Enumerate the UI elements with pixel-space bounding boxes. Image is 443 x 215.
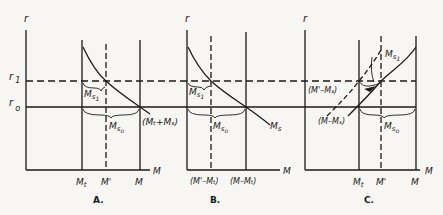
panel-b-ms0-brace — [188, 109, 245, 118]
r0-label: ro — [9, 97, 20, 113]
panel-c-tick-mprime: M' — [376, 177, 386, 187]
panel-a — [26, 30, 150, 170]
panel-b-r-label: r — [185, 13, 190, 24]
panel-a-ms0-brace — [83, 109, 139, 118]
panel-b-caption: B. — [210, 195, 220, 205]
panel-c-r-label: r — [303, 13, 308, 24]
panel-c-dashed-curve-label: (M'–Mₛ) — [308, 86, 337, 95]
panel-a-curve-label: (Mₜ+Mₛ) — [142, 117, 178, 127]
panel-b — [187, 30, 280, 170]
panel-a-tick-mprime: M' — [101, 177, 111, 187]
panel-c-dashed-curve — [327, 50, 381, 116]
panel-a-tick-m: M — [135, 177, 143, 187]
liquidity-diagram: r r r r1 ro Ms1 Mso (Mₜ+Mₛ) Mt M' M M A.… — [0, 0, 443, 215]
panel-c-solid-curve-label: (M–Mₛ) — [318, 117, 345, 126]
panel-a-caption: A. — [93, 195, 104, 205]
panel-b-ms0-label: Mso — [213, 121, 228, 134]
panel-b-tick-mprime-mt: (M'–Mₜ) — [190, 177, 219, 186]
panel-c-ms0-label: Mso — [384, 121, 399, 134]
r1-label: r1 — [9, 71, 20, 85]
panel-a-ms0-label: Mso — [109, 121, 124, 134]
panel-a-tick-mt: Mt — [76, 177, 87, 189]
panel-c-x-label: M — [425, 166, 433, 176]
panel-a-ms1-label: Ms1 — [84, 89, 99, 102]
panel-c-ms0-brace — [360, 109, 415, 118]
panel-b-x-label: M — [283, 166, 291, 176]
panel-b-tick-m-mt: (M–Mₜ) — [230, 177, 256, 186]
panel-b-ms-curve-label: Ms — [270, 121, 282, 133]
panel-a-r-label: r — [24, 13, 29, 24]
panel-b-ms1-label: Ms1 — [189, 87, 204, 100]
panel-c — [305, 30, 420, 170]
panel-c-tick-m: M — [411, 177, 419, 187]
panel-c-caption: C. — [364, 195, 374, 205]
panel-b-ms-curve — [188, 47, 270, 125]
panel-c-tick-mt: Mt — [353, 177, 364, 189]
panel-a-x-label: M — [153, 166, 161, 176]
panel-c-ms1-label: Ms1 — [385, 49, 400, 62]
